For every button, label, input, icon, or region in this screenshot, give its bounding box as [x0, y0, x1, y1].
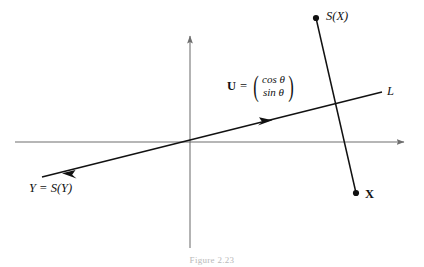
figure-caption: Figure 2.23 — [0, 255, 424, 265]
point-x-text: X — [365, 187, 374, 201]
point-sx-label: S(X) — [326, 10, 348, 23]
right-paren: ) — [288, 73, 294, 99]
unit-vector-label: U = ( cos θ sin θ ) — [227, 73, 296, 99]
unit-vector-components: cos θ sin θ — [261, 73, 286, 99]
point-y-label: Y = S(Y) — [29, 182, 72, 195]
line-l — [42, 92, 382, 177]
left-paren: ( — [253, 73, 259, 99]
segment-x-to-sx — [316, 18, 356, 193]
line-l-forward-arrowhead — [258, 117, 273, 125]
unit-vector-sin-row: sin θ — [263, 86, 284, 99]
unit-vector-column: ( cos θ sin θ ) — [251, 73, 296, 99]
point-y-text: Y = S(Y) — [29, 181, 72, 195]
diagram-svg — [0, 0, 424, 267]
unit-vector-equals: = — [240, 80, 247, 93]
point-sx-dot — [313, 15, 319, 21]
point-x-dot — [353, 190, 359, 196]
line-l-text: L — [387, 84, 394, 98]
figure-canvas: S(X) X L Y = S(Y) U = ( cos θ sin θ ) Fi… — [0, 0, 424, 267]
point-sx-text: S(X) — [326, 9, 348, 23]
unit-vector-cos-row: cos θ — [262, 73, 285, 86]
unit-vector-symbol: U — [227, 80, 236, 93]
point-x-label: X — [365, 188, 374, 201]
line-l-label: L — [387, 85, 394, 98]
